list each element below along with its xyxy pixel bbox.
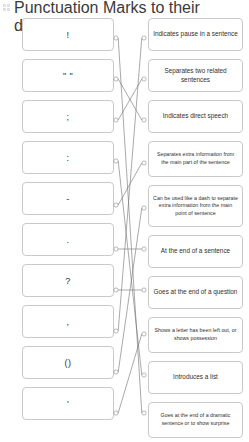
punctuation-card-hyphen-dash[interactable]: - (22, 182, 114, 215)
punctuation-label: ; (67, 112, 70, 122)
link-semicolon-to-separates-two[interactable] (118, 79, 142, 120)
connector-node-left-7[interactable] (114, 329, 118, 333)
punctuation-card-question-mark[interactable]: ? (22, 264, 114, 297)
punctuation-marks-column: ! " " ; : - . ? , () ' (22, 18, 114, 428)
definition-label: At the end of a sentence (161, 247, 230, 256)
connector-node-right-4[interactable] (142, 206, 146, 210)
connector-node-right-8[interactable] (142, 373, 146, 377)
link-exclamation-to-dramatic[interactable] (118, 38, 142, 413)
connector-node-left-8[interactable] (114, 370, 118, 374)
definition-label: Indicates pause in a sentence (153, 30, 238, 39)
punctuation-label: . (67, 235, 70, 245)
connector-node-left-4[interactable] (114, 203, 118, 207)
definition-label: Goes at the end of a dramatic sentence o… (153, 412, 238, 427)
punctuation-card-exclamation-mark[interactable]: ! (22, 18, 114, 51)
punctuation-card-colon[interactable]: : (22, 141, 114, 174)
punctuation-label: ! (67, 30, 70, 40)
punctuation-card-quotation-marks[interactable]: " " (22, 59, 114, 92)
definition-label: Separates two related sentences (153, 67, 238, 85)
definition-label: Shows a letter has been left out, or sho… (153, 327, 238, 342)
punctuation-card-comma[interactable]: , (22, 305, 114, 338)
connector-node-left-6[interactable] (114, 288, 118, 292)
connector-node-left-9[interactable] (114, 411, 118, 415)
definition-label: Indicates direct speech (163, 112, 228, 121)
connector-node-right-3[interactable] (142, 161, 146, 165)
definition-card-introduces-list[interactable]: Introduces a list (148, 361, 243, 394)
definition-card-dramatic-sentence[interactable]: Goes at the end of a dramatic sentence o… (148, 402, 243, 438)
definition-card-like-a-dash[interactable]: Can be used like a dash to separate extr… (148, 185, 243, 227)
definition-card-direct-speech[interactable]: Indicates direct speech (148, 100, 243, 133)
connector-node-right-1[interactable] (142, 77, 146, 81)
connector-node-right-0[interactable] (142, 36, 146, 40)
punctuation-label: ? (65, 276, 70, 286)
definition-label: Goes at the end of a question (154, 288, 238, 297)
connector-node-right-2[interactable] (142, 118, 146, 122)
instruction-bar: Draw a line to match the Punctuation Mar… (0, 0, 249, 16)
definition-card-end-of-sentence[interactable]: At the end of a sentence (148, 235, 243, 268)
punctuation-label: " " (63, 71, 73, 81)
link-comma-to-pause[interactable] (118, 38, 142, 331)
definition-label: Introduces a list (173, 373, 218, 382)
link-quotation-to-direct-speech[interactable] (118, 79, 142, 120)
definition-card-pause[interactable]: Indicates pause in a sentence (148, 18, 243, 51)
punctuation-card-semicolon[interactable]: ; (22, 100, 114, 133)
definition-label: Separates extra information from the mai… (153, 151, 238, 166)
connector-node-right-7[interactable] (142, 332, 146, 336)
punctuation-label: , (67, 317, 70, 327)
definition-label: Can be used like a dash to separate extr… (153, 195, 238, 218)
connector-node-right-5[interactable] (142, 247, 146, 251)
link-brackets-to-like-a-dash[interactable] (118, 208, 142, 372)
definition-card-extra-info[interactable]: Separates extra information from the mai… (148, 141, 243, 177)
punctuation-card-full-stop[interactable]: . (22, 223, 114, 256)
link-dash-to-extra-info[interactable] (118, 163, 142, 205)
connector-node-right-9[interactable] (142, 411, 146, 415)
connector-node-left-2[interactable] (114, 118, 118, 122)
connector-node-left-5[interactable] (114, 247, 118, 251)
definitions-column: Indicates pause in a sentence Separates … (148, 18, 243, 442)
drag-handle-icon (3, 4, 10, 12)
connector-node-left-0[interactable] (114, 36, 118, 40)
definition-card-separates-two[interactable]: Separates two related sentences (148, 59, 243, 92)
punctuation-card-apostrophe[interactable]: ' (22, 387, 114, 420)
punctuation-label: () (65, 358, 72, 368)
link-apostrophe-to-letter-left-out[interactable] (118, 334, 142, 413)
punctuation-card-brackets[interactable]: () (22, 346, 114, 379)
connector-node-right-6[interactable] (142, 288, 146, 292)
punctuation-label: - (66, 194, 69, 204)
definition-card-end-of-question[interactable]: Goes at the end of a question (148, 276, 243, 309)
link-colon-to-introduces-list[interactable] (118, 161, 142, 375)
punctuation-label: : (67, 153, 70, 163)
connector-node-left-3[interactable] (114, 159, 118, 163)
connector-node-left-1[interactable] (114, 77, 118, 81)
definition-card-letter-left-out[interactable]: Shows a letter has been left out, or sho… (148, 317, 243, 353)
punctuation-label: ' (67, 399, 69, 409)
